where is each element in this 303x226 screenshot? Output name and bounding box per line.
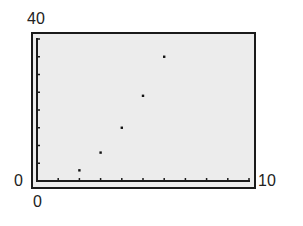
data-point <box>99 151 101 153</box>
scatter-plot <box>0 0 303 226</box>
y-max-label: 40 <box>27 11 45 27</box>
y-min-label: 0 <box>14 173 23 189</box>
x-min-label: 0 <box>33 194 42 210</box>
data-point <box>142 95 144 97</box>
x-max-label: 10 <box>258 173 276 189</box>
data-point <box>121 127 123 129</box>
data-point <box>78 169 80 171</box>
data-point <box>163 56 165 58</box>
